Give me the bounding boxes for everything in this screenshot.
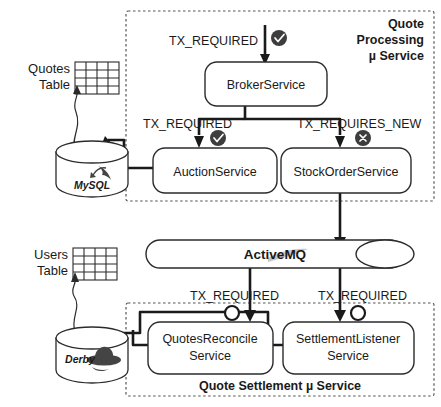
group-label-settlement: Quote Settlement µ Service (199, 379, 361, 393)
check-badge-icon-auction (210, 130, 226, 146)
service-label-quotesreconcile-line2: Service (189, 349, 231, 363)
service-label-settlementlistener-line2: Service (327, 349, 369, 363)
check-badge-icon-broker (271, 30, 287, 46)
database-derby: Derby (56, 327, 128, 383)
mysql-label: MySQL (74, 179, 110, 191)
tx-label-settlementlistener: TX_REQUIRED (318, 289, 407, 303)
architecture-diagram: Quotes Table Users Table MySQL (0, 0, 441, 407)
hollow-badge-icon-settlementlistener (351, 306, 365, 320)
quotes-table-label-line1: Quotes (28, 61, 70, 76)
users-table-label-line1: Users (34, 247, 68, 262)
message-broker-activemq[interactable]: ActiveMQ (146, 240, 414, 268)
tx-label-quotesreconcile: TX_REQUIRED (190, 289, 279, 303)
group-label-processing-line3: µ Service (369, 49, 424, 63)
users-table-icon (73, 248, 117, 280)
service-label-auction: AuctionService (173, 165, 256, 179)
derby-label: Derby (65, 353, 96, 365)
group-label-processing-line2: Processing (357, 33, 424, 47)
activemq-label: ActiveMQ (244, 247, 306, 262)
hollow-badge-icon-quotesreconcile (225, 306, 239, 320)
group-label-processing-line1: Quote (388, 17, 424, 31)
diagram-canvas: Quotes Table Users Table MySQL (0, 0, 441, 407)
service-label-broker: BrokerService (227, 78, 306, 92)
connector-derby-to-users-table (73, 280, 77, 331)
service-label-settlementlistener-line1: SettlementListener (296, 332, 400, 346)
quotes-table-icon (75, 62, 119, 94)
service-label-quotesreconcile-line1: QuotesReconcile (162, 332, 257, 346)
tx-label-stockorder: TX_REQUIRES_NEW (297, 117, 422, 131)
quotes-table-label-line2: Table (39, 77, 70, 92)
users-table-label-line2: Table (37, 263, 68, 278)
service-box-quotesreconcile[interactable] (148, 322, 273, 374)
tx-label-auction: TX_REQUIRED (143, 117, 232, 131)
service-label-stockorder: StockOrderService (294, 165, 399, 179)
tx-label-broker-in: TX_REQUIRED (169, 34, 258, 48)
cross-badge-icon-stockorder (355, 130, 371, 146)
arrowhead-into-settlementlistener (334, 310, 346, 322)
service-box-settlementlistener[interactable] (283, 322, 414, 374)
arrowhead-into-stockorder (335, 136, 345, 148)
arrowhead-into-auction (194, 136, 204, 148)
database-mysql: MySQL (56, 141, 128, 197)
